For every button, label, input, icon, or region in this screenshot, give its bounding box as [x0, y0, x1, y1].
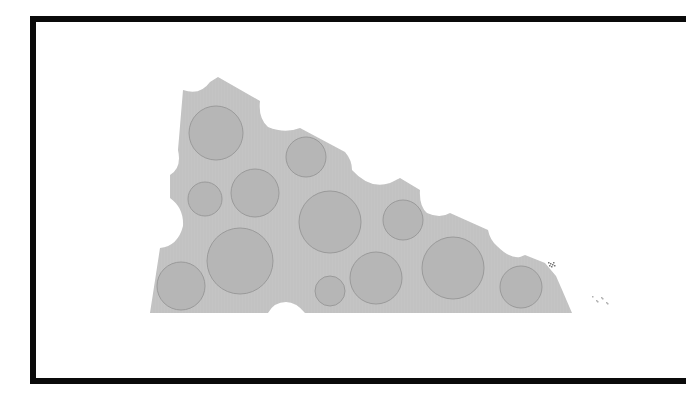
cheese-hole: [188, 182, 222, 216]
speck: [550, 263, 552, 265]
speck: [552, 264, 554, 266]
speck: [553, 262, 555, 264]
speck: [554, 265, 556, 267]
speck: [548, 262, 550, 264]
cheese-hole: [157, 262, 205, 310]
cheese-hole: [350, 252, 402, 304]
speck: [549, 265, 551, 267]
cheese-hole: [231, 169, 279, 217]
cheese-hole: [500, 266, 542, 308]
speck: [592, 296, 594, 298]
cheese-hole: [299, 191, 361, 253]
cheese-hole: [207, 228, 273, 294]
cheese-hole: [315, 276, 345, 306]
speck: [606, 302, 608, 304]
cheese-hole: [422, 237, 484, 299]
speck: [551, 266, 553, 268]
speck: [596, 300, 598, 302]
cheese-hole: [286, 137, 326, 177]
speck: [601, 297, 603, 299]
cheese-hole: [189, 106, 243, 160]
cheese-hole: [383, 200, 423, 240]
